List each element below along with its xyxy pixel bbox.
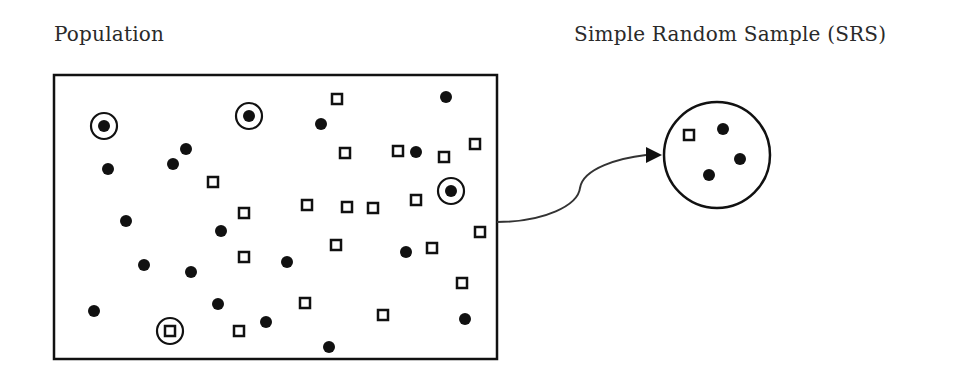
- srs-diagram: [0, 0, 977, 379]
- population-dot-icon: [410, 146, 422, 158]
- sample-dot-icon: [717, 123, 729, 135]
- population-dot-icon: [438, 178, 464, 204]
- population-square-icon: [331, 240, 341, 250]
- population-dot-icon: [323, 341, 335, 353]
- population-square-icon: [340, 148, 350, 158]
- population-dot-icon: [120, 215, 132, 227]
- population-dot-icon: [91, 113, 117, 139]
- population-dot-icon: [88, 305, 100, 317]
- population-square-icon: [332, 94, 342, 104]
- population-square-icon: [342, 202, 352, 212]
- population-square-icon: [411, 195, 421, 205]
- population-dot-icon: [459, 313, 471, 325]
- population-square-icon: [368, 203, 378, 213]
- population-dot-icon: [315, 118, 327, 130]
- population-square-icon: [393, 146, 403, 156]
- population-dot-icon: [215, 225, 227, 237]
- population-dot-icon: [185, 266, 197, 278]
- population-square-icon: [378, 310, 388, 320]
- population-square-icon: [234, 326, 244, 336]
- population-dot-icon: [212, 298, 224, 310]
- sample-items: [684, 123, 746, 181]
- population-dot-icon: [260, 316, 272, 328]
- sampling-arrow: [497, 155, 646, 222]
- population-square-icon: [300, 298, 310, 308]
- population-dot-icon: [236, 103, 262, 129]
- population-square-icon: [239, 252, 249, 262]
- population-square-icon: [475, 227, 485, 237]
- population-dot-icon: [167, 158, 179, 170]
- population-square-icon: [439, 152, 449, 162]
- population-square-icon: [208, 177, 218, 187]
- population-square-icon: [157, 318, 183, 344]
- sample-dot-icon: [703, 169, 715, 181]
- population-dot-icon: [180, 143, 192, 155]
- population-square-icon: [457, 278, 467, 288]
- population-square-icon: [427, 243, 437, 253]
- population-box: [54, 75, 497, 359]
- arrow-head-icon: [646, 147, 662, 163]
- population-dot-icon: [400, 246, 412, 258]
- population-square-icon: [470, 139, 480, 149]
- sample-dot-icon: [734, 153, 746, 165]
- population-items: [88, 91, 485, 353]
- sample-square-icon: [684, 130, 694, 140]
- population-square-icon: [239, 208, 249, 218]
- sample-circle: [664, 102, 770, 208]
- population-dot-icon: [281, 256, 293, 268]
- population-dot-icon: [138, 259, 150, 271]
- population-dot-icon: [102, 163, 114, 175]
- population-dot-icon: [440, 91, 452, 103]
- population-square-icon: [302, 200, 312, 210]
